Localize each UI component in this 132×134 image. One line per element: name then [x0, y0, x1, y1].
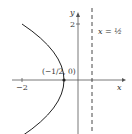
parabola-curve [22, 24, 64, 134]
y-tick-label: 2 [70, 21, 75, 29]
focus-label: (−1/2, 0) [42, 68, 76, 76]
x-tick-label: −2 [16, 84, 28, 92]
directrix-label: x = ½ [98, 28, 122, 36]
y-axis-arrow-icon [76, 12, 80, 17]
focus-point [62, 78, 65, 81]
y-axis-label: y [70, 9, 75, 17]
x-axis-arrow-icon [122, 78, 126, 82]
x-axis-label: x [117, 84, 122, 92]
